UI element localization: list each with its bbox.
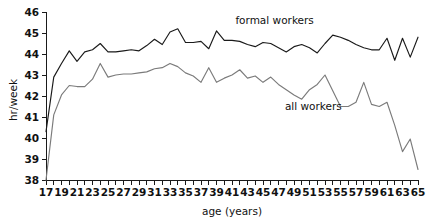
y-tick-label: 46 [24,6,39,18]
y-tick-label: 45 [24,27,39,39]
x-tick-label: 21 [70,186,85,198]
x-tick-label: 45 [256,186,271,198]
line-chart: 383940414243444546 171921232527293133353… [0,0,431,222]
series-label-all-workers: all workers [285,100,342,112]
x-tick-label: 43 [240,186,255,198]
series-line-formal-workers [46,29,418,132]
x-tick-label: 41 [225,186,240,198]
x-tick-label: 49 [287,186,302,198]
y-tick-label: 40 [24,132,39,144]
x-tick-label: 53 [318,186,333,198]
x-tick-label: 23 [85,186,100,198]
x-tick-label: 37 [194,186,209,198]
x-tick-label: 31 [147,186,162,198]
series-line-all-workers [46,63,418,180]
y-tick-label: 41 [24,111,39,123]
series-lines [46,29,418,180]
x-tick-label: 51 [302,186,317,198]
y-tick-label: 42 [24,90,39,102]
y-axis: 383940414243444546 [24,6,46,186]
x-tick-label: 29 [132,186,147,198]
series-annotations: formal workersall workers [235,14,341,112]
x-tick-label: 55 [333,186,348,198]
x-tick-label: 33 [163,186,178,198]
chart-container: 383940414243444546 171921232527293133353… [0,0,431,222]
y-tick-label: 44 [24,48,39,60]
x-tick-label: 57 [349,186,364,198]
x-axis-title: age (years) [202,205,262,217]
x-tick-label: 63 [395,186,410,198]
x-tick-label: 59 [364,186,379,198]
y-tick-label: 39 [24,153,39,165]
x-tick-label: 47 [271,186,286,198]
x-tick-label: 61 [380,186,395,198]
x-tick-label: 65 [411,186,426,198]
y-tick-label: 38 [24,174,39,186]
x-axis: 1719212325272931333537394143454749515355… [39,180,426,198]
series-label-formal-workers: formal workers [235,14,313,26]
x-tick-label: 25 [101,186,116,198]
x-tick-label: 19 [54,186,69,198]
x-tick-label: 27 [116,186,131,198]
y-tick-label: 43 [24,69,39,81]
x-tick-label: 35 [178,186,193,198]
x-tick-label: 39 [209,186,224,198]
y-axis-title: hr/week [7,78,19,121]
x-tick-label: 17 [39,186,54,198]
